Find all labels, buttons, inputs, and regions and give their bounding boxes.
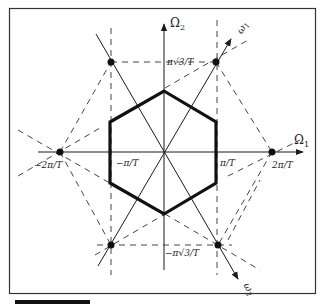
tick-neg-two-pi-T: −2π/T xyxy=(34,160,63,170)
tick-neg-pi-T: −π/T xyxy=(116,158,139,168)
tick-pi-T: π/T xyxy=(219,158,236,168)
tick-neg-pi-sqrt3-T: −π√3/T xyxy=(165,248,200,258)
caption-bar xyxy=(15,300,90,304)
hexagonal-lattice-diagram: Ω2 Ω1 ω1 ω2 π√3/T −π√3/T π/T −π/T 2π/T −… xyxy=(0,0,323,304)
tick-pi-sqrt3-T: π√3/T xyxy=(166,57,194,67)
tick-two-pi-T: 2π/T xyxy=(271,160,294,170)
